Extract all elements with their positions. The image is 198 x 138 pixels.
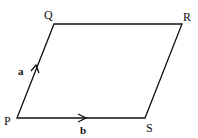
- parallelogram-diagram: Q R P S a b: [0, 0, 198, 138]
- vertex-label-s: S: [146, 121, 153, 135]
- vector-label-b: b: [80, 124, 86, 136]
- vertex-label-p: P: [4, 114, 11, 128]
- parallelogram-pqrs: [17, 24, 182, 118]
- vector-label-a: a: [18, 65, 24, 77]
- vertex-label-q: Q: [44, 8, 53, 22]
- vertex-label-r: R: [183, 10, 191, 24]
